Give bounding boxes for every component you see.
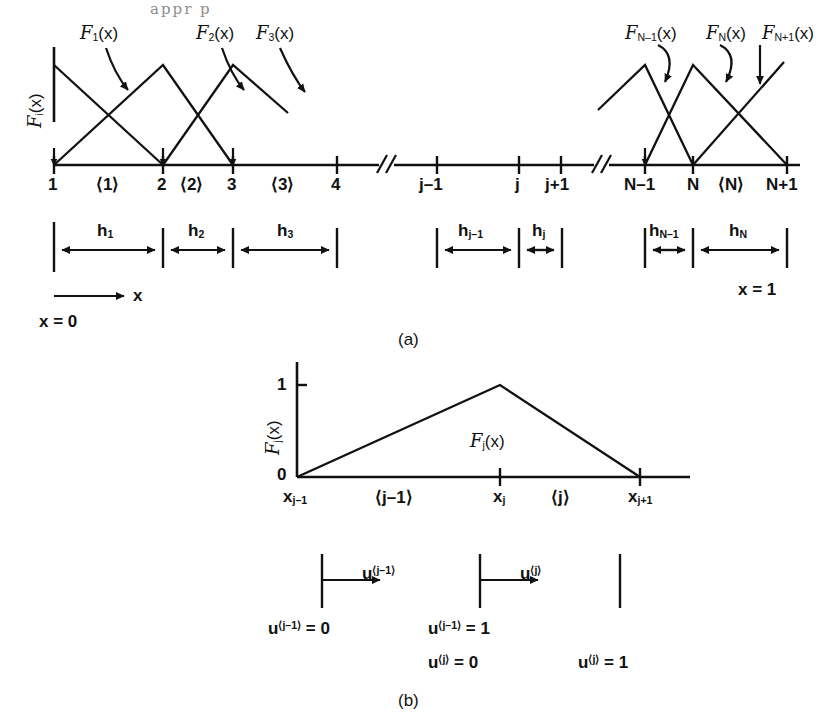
basis-function-n-plus-1-label: FN+1(x) (762, 24, 814, 43)
basis-3-symbol: F (256, 22, 269, 43)
panel-b-xj-subscript: j (502, 494, 505, 506)
hnm1-subscript: N–1 (659, 228, 678, 240)
cond4-value: = 1 (599, 653, 628, 672)
basis-2-symbol: F (196, 22, 209, 43)
cond1-value: = 0 (301, 619, 330, 638)
basis-function-2-pointer (222, 48, 244, 90)
local-coordinate-label-j: u⟨j⟩ (520, 565, 541, 582)
h2-symbol: h (188, 221, 198, 240)
cond1-symbol: u (268, 619, 278, 638)
basis-np1-tail: (x) (794, 24, 814, 43)
node-label-2: 2 (157, 176, 166, 193)
cond2-symbol: u (428, 619, 438, 638)
node-label-3: 3 (227, 176, 236, 193)
panel-a-caption: (a) (398, 331, 419, 348)
basis-function-3-pointer (280, 48, 305, 92)
node-label-4: 4 (331, 176, 340, 193)
spacing-label-hn-minus-1: hN–1 (649, 222, 679, 240)
basis-function-1-pointer (106, 48, 128, 90)
node-label-j-minus-1: j–1 (419, 176, 443, 193)
node-label-j: j (515, 176, 520, 193)
cond3-value: = 0 (449, 653, 478, 672)
hj-subscript: j (542, 228, 545, 240)
x-right-bound-label: x = 1 (738, 281, 776, 298)
basis-n-symbol: F (706, 22, 719, 43)
h1-symbol: h (97, 221, 107, 240)
basis-function-3-curve (163, 65, 288, 165)
u-jm1-superscript: ⟨j–1⟩ (372, 564, 395, 576)
panel-b-node-label-j-plus-1: xj+1 (628, 488, 652, 506)
panel-b-curve-tail: (x) (485, 432, 505, 451)
basis-function-n-minus-1-label: FN–1(x) (625, 24, 677, 43)
node-label-j-plus-1: j+1 (545, 176, 569, 193)
basis-function-3-label: F3(x) (256, 24, 294, 43)
basis-np1-symbol: F (762, 22, 775, 43)
cond2-superscript: ⟨j–1⟩ (438, 619, 461, 631)
h3-subscript: 3 (287, 228, 293, 240)
spacing-label-hn: hN (729, 222, 747, 240)
panel-b-y-axis-label-tail: (x) (264, 420, 283, 440)
hj-symbol: h (532, 221, 542, 240)
basis-n-subscript: N (719, 31, 727, 43)
condition-u-jm1-equals-0: u⟨j–1⟩ = 0 (268, 620, 330, 637)
node-label-n-plus-1: N+1 (766, 176, 798, 193)
x-left-bound-label: x = 0 (39, 313, 77, 330)
hjm1-subscript: j–1 (468, 228, 483, 240)
panel-a-y-axis-label: Fi(x) (24, 93, 46, 128)
x-direction-label: x (133, 287, 142, 304)
spacing-label-h3: h3 (277, 222, 293, 240)
panel-b-xjp1-subscript: j+1 (637, 494, 652, 506)
node-label-n: N (687, 176, 699, 193)
panel-b-y-axis-label: Fj(x) (262, 420, 284, 455)
hn-symbol: h (729, 221, 739, 240)
condition-u-j-equals-1: u⟨j⟩ = 1 (578, 654, 628, 671)
condition-u-jm1-equals-1: u⟨j–1⟩ = 1 (428, 620, 490, 637)
basis-function-n-plus-1-curve (693, 62, 784, 165)
spacing-label-hj: hj (532, 222, 545, 240)
node-label-n-minus-1: N–1 (624, 176, 655, 193)
figure-vector-layer (0, 0, 832, 725)
panel-a-y-axis-label-tail: (x) (26, 93, 45, 113)
spacing-label-h1: h1 (97, 222, 113, 240)
condition-u-j-equals-0: u⟨j⟩ = 0 (428, 654, 478, 671)
local-coordinate-label-j-minus-1: u⟨j–1⟩ (362, 565, 395, 582)
basis-function-2-label: F2(x) (196, 24, 234, 43)
basis-function-n-minus-1-pointer (658, 45, 670, 82)
panel-b-y-tick-label-1: 1 (277, 376, 286, 393)
panel-b-y-tick-label-0: 0 (277, 466, 286, 483)
cond4-superscript: ⟨j⟩ (588, 653, 599, 665)
h1-subscript: 1 (107, 228, 113, 240)
panel-a-graphics (54, 45, 800, 296)
panel-b-node-label-j: xj (493, 488, 505, 506)
basis-np1-subscript: N+1 (775, 31, 795, 43)
panel-a-y-axis-label-subscript: i (33, 113, 45, 115)
cond2-value: = 1 (461, 619, 490, 638)
axis-break-mark-1 (377, 155, 396, 173)
cond1-superscript: ⟨j–1⟩ (278, 619, 301, 631)
figure-page: appr p (0, 0, 832, 725)
panel-b-xjm1-subscript: j–1 (292, 494, 307, 506)
u-j-symbol: u (520, 564, 530, 583)
hnm1-symbol: h (649, 221, 659, 240)
panel-b-curve-symbol: F (470, 430, 483, 451)
basis-1-symbol: F (80, 22, 93, 43)
spacing-label-hj-minus-1: hj–1 (458, 222, 483, 240)
panel-b-node-label-j-minus-1: xj–1 (283, 488, 307, 506)
panel-b-element-label-j-minus-1: ⟨j–1⟩ (375, 489, 413, 506)
cond3-superscript: ⟨j⟩ (438, 653, 449, 665)
cond4-symbol: u (578, 653, 588, 672)
element-label-3: ⟨3⟩ (271, 176, 294, 193)
basis-function-n-label: FN(x) (706, 24, 746, 43)
element-label-n: ⟨N⟩ (718, 176, 744, 193)
h3-symbol: h (277, 221, 287, 240)
node-label-1: 1 (48, 176, 57, 193)
basis-1-tail: (x) (98, 24, 118, 43)
basis-nm1-subscript: N–1 (638, 31, 657, 43)
basis-nm1-symbol: F (625, 22, 638, 43)
panel-b-y-axis-label-subscript: j (271, 440, 283, 442)
panel-a-y-axis-label-symbol: F (24, 116, 45, 129)
panel-b-graphics (297, 362, 690, 608)
u-j-superscript: ⟨j⟩ (530, 564, 541, 576)
cond3-symbol: u (428, 653, 438, 672)
basis-3-tail: (x) (274, 24, 294, 43)
